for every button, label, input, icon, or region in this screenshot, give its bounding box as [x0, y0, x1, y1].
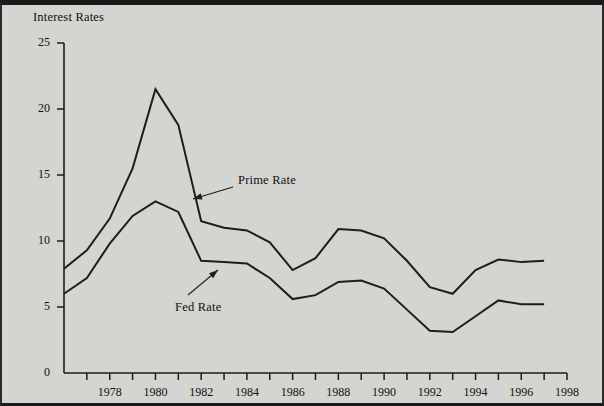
- x-tick-label: 1988: [312, 385, 364, 400]
- y-tick-label: 15: [18, 167, 50, 182]
- x-tick-label: 1992: [404, 385, 456, 400]
- x-tick-label: 1978: [84, 385, 136, 400]
- x-tick-label: 1980: [129, 385, 181, 400]
- x-tick-label: 1982: [175, 385, 227, 400]
- annotation-arrow-prime-rate: [193, 187, 233, 199]
- x-tick-label: 1986: [267, 385, 319, 400]
- chart-figure: Interest Rates 0510152025197819801982198…: [0, 0, 604, 406]
- y-tick-label: 0: [18, 365, 50, 380]
- x-tick-label: 1998: [541, 385, 593, 400]
- x-tick-label: 1994: [450, 385, 502, 400]
- x-tick-label: 1984: [221, 385, 273, 400]
- series-label-fed-rate: Fed Rate: [175, 300, 221, 315]
- x-tick-label: 1990: [358, 385, 410, 400]
- y-tick-label: 5: [18, 299, 50, 314]
- x-axis-ticks: [87, 373, 567, 380]
- y-tick-label: 10: [18, 233, 50, 248]
- annotation-arrow-fed-rate: [188, 270, 218, 295]
- y-tick-label: 25: [18, 35, 50, 50]
- series-line-prime-rate: [64, 89, 544, 294]
- series-label-prime-rate: Prime Rate: [238, 173, 296, 188]
- series-line-fed-rate: [64, 201, 544, 332]
- axes: [64, 43, 567, 373]
- y-tick-label: 20: [18, 101, 50, 116]
- x-tick-label: 1996: [495, 385, 547, 400]
- y-axis-ticks: [57, 43, 64, 307]
- interest-rates-line-chart: [2, 5, 604, 406]
